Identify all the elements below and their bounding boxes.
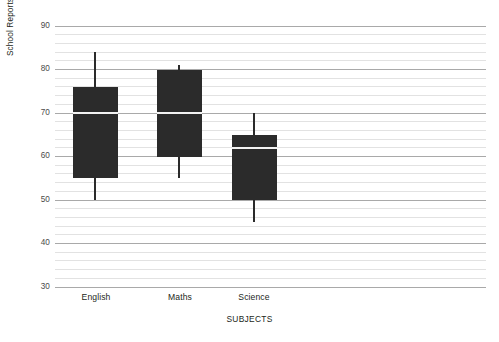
box-plot-series <box>73 52 277 222</box>
box-iqr <box>73 87 118 178</box>
x-axis-tick-label-maths: Maths <box>144 292 216 302</box>
box-plot-chart: School Reports - Percentage % 90 80 70 6… <box>0 0 499 342</box>
box-plot-science <box>232 113 277 222</box>
x-axis-tick-label-english: English <box>60 292 132 302</box>
box-plot-english <box>73 52 118 200</box>
box-iqr <box>232 135 277 200</box>
x-axis-title: SUBJECTS <box>0 314 499 324</box>
plot-area <box>0 0 499 342</box>
x-axis-tick-label-science: Science <box>218 292 290 302</box>
box-plot-maths <box>157 65 202 178</box>
